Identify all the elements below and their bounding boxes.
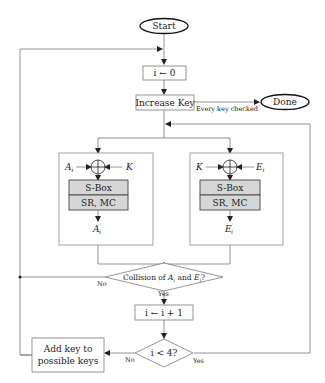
loop-check-label: i < 4? — [151, 348, 178, 358]
increment-node: i ← i + 1 — [135, 305, 193, 320]
increment-label: i ← i + 1 — [145, 308, 183, 318]
flowchart-canvas: Start i ← 0 Increase Key Every key check… — [0, 0, 325, 383]
add-key-label-line2: possible keys — [38, 356, 99, 366]
xor-icon — [91, 160, 105, 174]
collision-no-label: No — [97, 280, 107, 288]
right-sbox-label: S-Box — [217, 183, 244, 193]
left-aes-panel: Ai K S-Box SR, MC A′i — [59, 153, 153, 245]
merge-line — [98, 245, 230, 264]
every-key-checked-label: Every key checked — [196, 105, 258, 113]
init-node: i ← 0 — [143, 66, 186, 80]
start-node: Start — [140, 19, 188, 34]
right-srmc-label: SR, MC — [213, 198, 248, 208]
init-label: i ← 0 — [154, 68, 176, 78]
check-yes-label: Yes — [192, 357, 204, 365]
right-aes-panel: K Ei S-Box SR, MC E′i — [190, 153, 283, 245]
collision-label: Collision of Ai and Ei? — [123, 273, 205, 283]
left-output-label: A′i — [92, 222, 102, 235]
check-no-label: No — [125, 356, 135, 364]
add-key-node: Add key to possible keys — [32, 338, 104, 372]
left-srmc-label: SR, MC — [81, 198, 116, 208]
done-node: Done — [261, 95, 309, 110]
right-output-label: E′i — [224, 222, 234, 235]
xor-icon — [223, 160, 237, 174]
increase-key-node: Increase Key — [135, 95, 195, 110]
add-key-label-line1: Add key to — [43, 344, 93, 354]
left-key-label: K — [125, 162, 134, 172]
increase-key-label: Increase Key — [135, 98, 195, 108]
left-loop-junction — [19, 276, 22, 279]
loop-check-decision-node: i < 4? — [135, 339, 193, 367]
collision-decision-node: Collision of Ai and Ei? — [105, 263, 223, 291]
done-label: Done — [273, 97, 297, 107]
right-key-label: K — [195, 162, 204, 172]
start-label: Start — [152, 21, 175, 31]
left-sbox-label: S-Box — [85, 183, 112, 193]
collision-yes-label: Yes — [157, 290, 169, 298]
